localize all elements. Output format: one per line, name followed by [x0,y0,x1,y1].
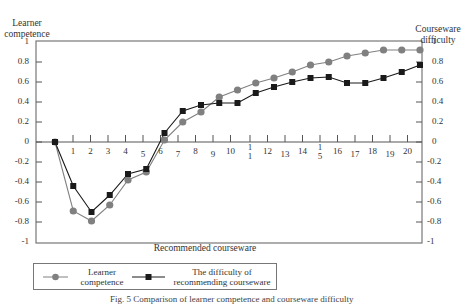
y-tick-label: -0.2 [427,156,441,166]
y-tick-label: -0.4 [427,176,441,186]
legend-label-line2: competence [70,277,134,287]
legend-item-learner-competence: Learner competence [70,267,134,287]
legend-label-line2: recommending courseware [168,277,276,287]
circle-marker-icon [252,79,259,86]
legend-label-line1: The difficulty of [168,267,276,277]
square-marker-icon [198,102,204,108]
y-tick-label: -0.2 [15,156,29,166]
right-axis-title: Courseware difficulty [410,24,465,46]
square-marker-icon [107,192,113,198]
circle-marker-icon [270,74,277,81]
y-tick-label: -0.6 [427,196,441,206]
right-axis-title-line2: difficulty [410,35,465,46]
square-marker-icon [143,166,149,172]
y-tick-label: -0.8 [15,216,29,226]
figure-caption: Fig. 5 Comparison of learner competence … [110,294,354,304]
x-axis-title: Recommended courseware [140,243,270,254]
y-tick-label: 0.6 [432,76,443,86]
circle-marker-icon [161,136,168,143]
legend-label-line1: Learner [70,267,134,277]
square-marker-icon [417,62,423,68]
y-tick-label: 0.8 [18,56,29,66]
circle-marker-icon [307,61,314,68]
left-axis-title: Learner competence [2,18,52,40]
square-marker-icon [289,79,295,85]
x-ticks [73,135,408,142]
y-tick-label: 0 [432,136,437,146]
y-tick-label: 0.2 [18,116,29,126]
circle-marker-icon [106,201,113,208]
y-tick-label: 0 [25,136,30,146]
square-marker-icon [235,100,241,106]
left-axis-title-line2: competence [2,29,52,40]
y-tick-label: -0.6 [15,196,29,206]
y-tick-label: -0.8 [427,216,441,226]
left-axis-title-line1: Learner [2,18,52,29]
y-tick-label: 0.8 [432,56,443,66]
x-tick-label: 20 [398,147,418,156]
circle-marker-icon [216,93,223,100]
square-marker-icon [326,74,332,80]
square-marker-icon [70,183,76,189]
circle-marker-icon [416,46,423,53]
circle-marker-icon [197,108,204,115]
square-marker-icon [216,100,222,106]
circle-marker-icon [398,46,405,53]
square-marker-icon [253,90,259,96]
left-y-ticks [36,62,42,222]
right-y-ticks [416,62,422,222]
y-tick-label: -1 [427,236,435,246]
y-tick-label: 0.6 [18,76,29,86]
square-marker-icon [381,75,387,81]
circle-marker-icon [179,118,186,125]
legend: Learner competence The difficulty of rec… [33,263,277,290]
square-marker-icon [125,171,131,177]
circle-marker-icon [70,207,77,214]
y-tick-label: 0.4 [18,96,29,106]
circle-marker-icon [343,52,350,59]
square-marker-icon [180,108,186,114]
y-tick-label: 0.2 [432,116,443,126]
square-marker-icon [308,75,314,81]
square-marker-icon [162,130,168,136]
legend-item-courseware-difficulty: The difficulty of recommending coursewar… [168,267,276,287]
x-tick-label: 10 [221,147,241,156]
circle-marker-icon [289,68,296,75]
square-marker-icon [399,69,405,75]
y-tick-label: 0.4 [432,96,443,106]
square-marker-icon [344,80,350,86]
y-tick-label: -1 [22,236,30,246]
data-series [51,46,423,224]
y-tick-label: -0.4 [15,176,29,186]
circle-marker-icon [124,176,131,183]
circle-marker-icon [362,49,369,56]
circle-marker-icon [234,86,241,93]
square-marker-icon [89,209,95,215]
circle-marker-icon [380,46,387,53]
circle-marker-icon [325,58,332,65]
right-axis-title-line1: Courseware [410,24,465,35]
square-marker-icon [271,84,277,90]
square-marker-icon [52,139,58,145]
square-marker-icon [362,80,368,86]
circle-marker-icon [88,217,95,224]
